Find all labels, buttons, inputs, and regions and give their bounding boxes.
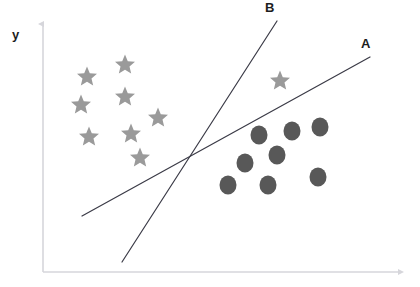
circle-point [269, 146, 286, 165]
star-points-group [71, 55, 290, 167]
line-label-a: A [361, 37, 370, 50]
star-point [77, 67, 97, 86]
star-point [115, 87, 135, 106]
circle-point [237, 154, 254, 173]
circle-point [220, 176, 237, 195]
scatter-plot-figure: y A B [0, 0, 420, 287]
line-label-b: B [265, 1, 274, 14]
circle-point [284, 122, 301, 141]
y-axis-label: y [12, 28, 19, 41]
circle-point [310, 168, 327, 187]
circle-point [260, 176, 277, 195]
circle-point [251, 126, 268, 145]
star-point [270, 71, 290, 90]
circle-points-group [220, 118, 329, 195]
circle-point [312, 118, 329, 137]
star-point [115, 55, 135, 74]
star-point [130, 148, 150, 167]
axes [43, 24, 399, 272]
plot-canvas [0, 0, 420, 287]
star-point [121, 124, 141, 143]
star-point [71, 95, 91, 114]
star-point [148, 108, 168, 127]
star-point [79, 127, 99, 146]
